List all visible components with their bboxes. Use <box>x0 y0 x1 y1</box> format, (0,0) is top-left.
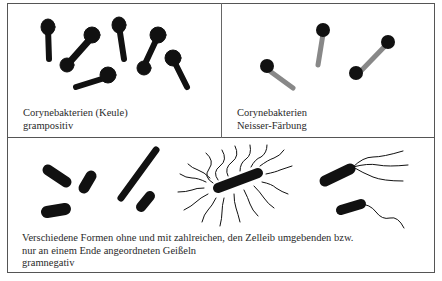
panel-gram-negative-forms: Verschiedene Formen ohne und mit zahlrei… <box>8 138 435 272</box>
caption-line: Neisser-Färbung <box>237 120 307 133</box>
caption-line: Verschiedene Formen ohne und mit zahlrei… <box>22 232 353 245</box>
panel-corynebacteria-neisser: Corynebakterien Neisser-Färbung <box>222 4 435 137</box>
caption-line: Corynebakterien (Keule) <box>23 107 128 120</box>
panel-corynebacteria-gram-positive: Corynebakterien (Keule) grampositiv <box>8 4 221 137</box>
caption-line: Corynebakterien <box>237 107 307 120</box>
caption-line: grampositiv <box>23 120 128 133</box>
caption-line: gramnegativ <box>22 257 353 270</box>
caption-line: nur an einem Ende angeordneten Geißeln <box>22 245 353 258</box>
